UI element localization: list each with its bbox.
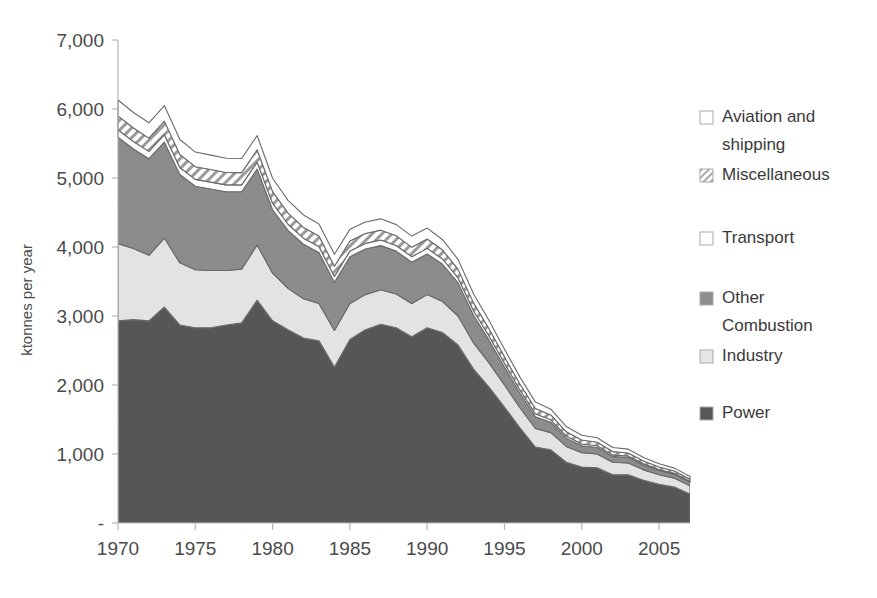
legend-label: shipping (722, 135, 785, 154)
x-tick-label: 2000 (561, 538, 603, 559)
legend-item-transport[interactable]: Transport (700, 228, 794, 247)
legend-swatch-icon (700, 111, 713, 124)
y-tick-label: 3,000 (56, 306, 104, 327)
legend-label: Power (722, 403, 771, 422)
y-tick-label: 1,000 (56, 444, 104, 465)
legend-label: Combustion (722, 316, 813, 335)
x-tick-label: 1980 (251, 538, 293, 559)
y-tick-label: 4,000 (56, 237, 104, 258)
plot-areas (118, 100, 690, 523)
legend-swatch-icon (700, 407, 713, 420)
legend-label: Miscellaneous (722, 165, 830, 184)
y-tick-label: - (98, 513, 104, 534)
legend-item-power[interactable]: Power (700, 403, 771, 422)
legend-swatch-icon (700, 350, 713, 363)
legend-item-aviation-and-shipping[interactable]: Aviation andshipping (700, 107, 815, 154)
chart-canvas: -1,0002,0003,0004,0005,0006,0007,000 197… (0, 0, 877, 598)
chart-legend: Aviation andshippingMiscellaneousTranspo… (700, 107, 830, 422)
x-tick-label: 1970 (97, 538, 139, 559)
area-series-power (118, 300, 690, 523)
y-tick-labels: -1,0002,0003,0004,0005,0006,0007,000 (56, 30, 118, 534)
x-tick-label: 1985 (329, 538, 371, 559)
legend-item-industry[interactable]: Industry (700, 346, 783, 365)
x-tick-label: 1975 (174, 538, 216, 559)
legend-label: Aviation and (722, 107, 815, 126)
x-tick-label: 2005 (638, 538, 680, 559)
stacked-area-chart: -1,0002,0003,0004,0005,0006,0007,000 197… (0, 0, 877, 598)
legend-item-other-combustion[interactable]: OtherCombustion (700, 288, 813, 335)
y-tick-label: 6,000 (56, 99, 104, 120)
legend-swatch-icon (700, 292, 713, 305)
x-tick-labels: 19701975198019851990199520002005 (97, 523, 680, 559)
legend-label: Industry (722, 346, 783, 365)
y-axis-title: ktonnes per year (18, 244, 35, 356)
x-tick-label: 1995 (483, 538, 525, 559)
legend-swatch-icon (700, 169, 713, 182)
legend-label: Other (722, 288, 765, 307)
legend-label: Transport (722, 228, 794, 247)
legend-item-miscellaneous[interactable]: Miscellaneous (700, 165, 830, 184)
legend-swatch-icon (700, 232, 713, 245)
y-tick-label: 2,000 (56, 375, 104, 396)
y-tick-label: 5,000 (56, 168, 104, 189)
y-tick-label: 7,000 (56, 30, 104, 51)
x-tick-label: 1990 (406, 538, 448, 559)
